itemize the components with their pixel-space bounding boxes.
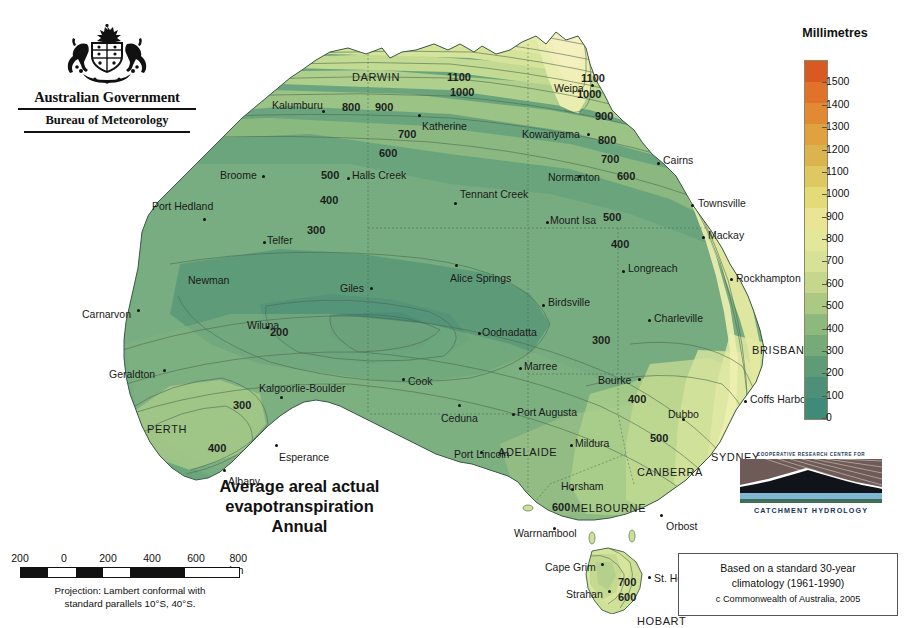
contour-label: 400: [611, 238, 629, 250]
legend-tick: 1200: [826, 143, 849, 155]
scale-bar-label: 200: [11, 552, 29, 564]
legend-tick-mark: [822, 217, 827, 218]
city-label: Townsville: [698, 197, 746, 209]
city-marker-dot: [203, 218, 206, 221]
legend-tick-mark: [822, 329, 827, 330]
city-label: DARWIN: [352, 71, 400, 83]
legend-color-band: [805, 61, 827, 82]
crc-catchment-hydrology-logo: COOPERATIVE RESEARCH CENTRE FOR CATCHMEN…: [740, 452, 882, 515]
crc-top-text: COOPERATIVE RESEARCH CENTRE FOR: [740, 452, 882, 457]
contour-label: 400: [320, 194, 338, 206]
city-label: Mildura: [575, 437, 609, 449]
legend-tick-value: 1200: [826, 143, 849, 155]
contour-label: 1100: [447, 71, 471, 83]
city-label: PERTH: [147, 423, 187, 435]
legend-tick-mark: [822, 306, 827, 307]
legend-tick: 800: [826, 232, 844, 244]
city-label: Kalumburu: [272, 99, 323, 111]
city-label: Giles: [340, 282, 364, 294]
city-marker-dot: [223, 469, 226, 472]
city-marker-dot: [730, 278, 733, 281]
projection-line1: Projection: Lambert conformal with: [20, 584, 240, 597]
contour-label: 500: [650, 432, 668, 444]
city-label: Marree: [524, 360, 557, 372]
contour-label: 500: [603, 211, 621, 223]
city-label: Katherine: [422, 120, 467, 132]
contour-label: 700: [398, 128, 416, 140]
city-marker-dot: [454, 202, 457, 205]
city-marker-dot: [263, 241, 266, 244]
legend-tick: 900: [826, 210, 844, 222]
legend-tick: 1300: [826, 120, 849, 132]
map-title-line2: evapotranspiration: [192, 496, 407, 516]
map-title-line1: Average areal actual: [192, 476, 407, 496]
city-marker-dot: [478, 332, 481, 335]
city-label: Mount Isa: [550, 214, 596, 226]
catchment-hydrology-landscape-icon: [740, 459, 882, 503]
legend-tick-mark: [822, 127, 827, 128]
projection-line2: standard parallels 10°S, 40°S.: [20, 597, 240, 610]
contour-label: 400: [208, 442, 226, 454]
city-marker-dot: [275, 444, 278, 447]
legend-tick-value: 100: [826, 389, 844, 401]
city-marker-dot: [570, 444, 573, 447]
legend-color-band: [805, 293, 827, 314]
attribution-line3: c Commonwealth of Australia, 2005: [685, 593, 891, 606]
city-label: Warrnambool: [514, 527, 577, 539]
legend-tick: 300: [826, 344, 844, 356]
map-title-line3: Annual: [192, 516, 407, 536]
legend-tick-labels: 1500140013001200110010009008007006005004…: [826, 60, 886, 418]
legend-tick: 1500: [826, 75, 849, 87]
contour-label: 200: [270, 326, 288, 338]
city-label: Geraldton: [109, 368, 155, 380]
city-label: Port Hedland: [152, 200, 213, 212]
city-label: Kalgoorlie-Boulder: [259, 382, 345, 394]
city-marker-dot: [512, 413, 515, 416]
city-marker-dot: [601, 563, 604, 566]
contour-label: 800: [342, 101, 360, 113]
city-marker-dot: [608, 590, 611, 593]
contour-label: 600: [618, 591, 636, 603]
city-label: Tennant Creek: [460, 188, 528, 200]
scale-bar-label: 400: [143, 552, 161, 564]
city-label: Ceduna: [441, 412, 478, 424]
city-label: Halls Creek: [352, 169, 406, 181]
legend-tick: 0: [826, 411, 832, 423]
legend-tick-value: 0: [826, 411, 832, 423]
legend-tick: 1000: [826, 187, 849, 199]
city-label: Bourke: [598, 374, 631, 386]
legend-tick: 1400: [826, 98, 849, 110]
city-marker-dot: [542, 304, 545, 307]
contour-label: 900: [375, 101, 393, 113]
city-label: Kowanyama: [522, 128, 580, 140]
city-label: Charleville: [654, 312, 703, 324]
legend-tick-value: 600: [826, 277, 844, 289]
city-marker-dot: [347, 177, 350, 180]
contour-label: 500: [321, 169, 339, 181]
legend-tick-mark: [822, 351, 827, 352]
legend-tick-mark: [822, 396, 827, 397]
legend-tick-mark: [822, 239, 827, 240]
legend-tick-value: 400: [826, 322, 844, 334]
city-marker-dot: [744, 400, 747, 403]
legend-tick: 600: [826, 277, 844, 289]
contour-label: 300: [233, 399, 251, 411]
city-label: CANBERRA: [637, 466, 703, 478]
legend-tick-value: 500: [826, 299, 844, 311]
city-label: Broome: [220, 169, 257, 181]
city-label: Port Augusta: [517, 406, 577, 418]
crc-bottom-text: CATCHMENT HYDROLOGY: [740, 506, 882, 515]
city-label: Strahan: [566, 588, 603, 600]
city-label: Dubbo: [668, 408, 699, 420]
legend-color-band: [805, 187, 827, 208]
contour-label: 900: [595, 110, 613, 122]
legend-color-band: [805, 145, 827, 166]
city-marker-dot: [648, 576, 651, 579]
legend-tick: 1100: [826, 165, 849, 177]
contour-label: 800: [598, 134, 616, 146]
legend-tick-value: 900: [826, 210, 844, 222]
city-marker-dot: [660, 514, 663, 517]
city-label: Birdsville: [548, 296, 590, 308]
city-marker-dot: [702, 236, 705, 239]
legend-tick-value: 1400: [826, 98, 849, 110]
